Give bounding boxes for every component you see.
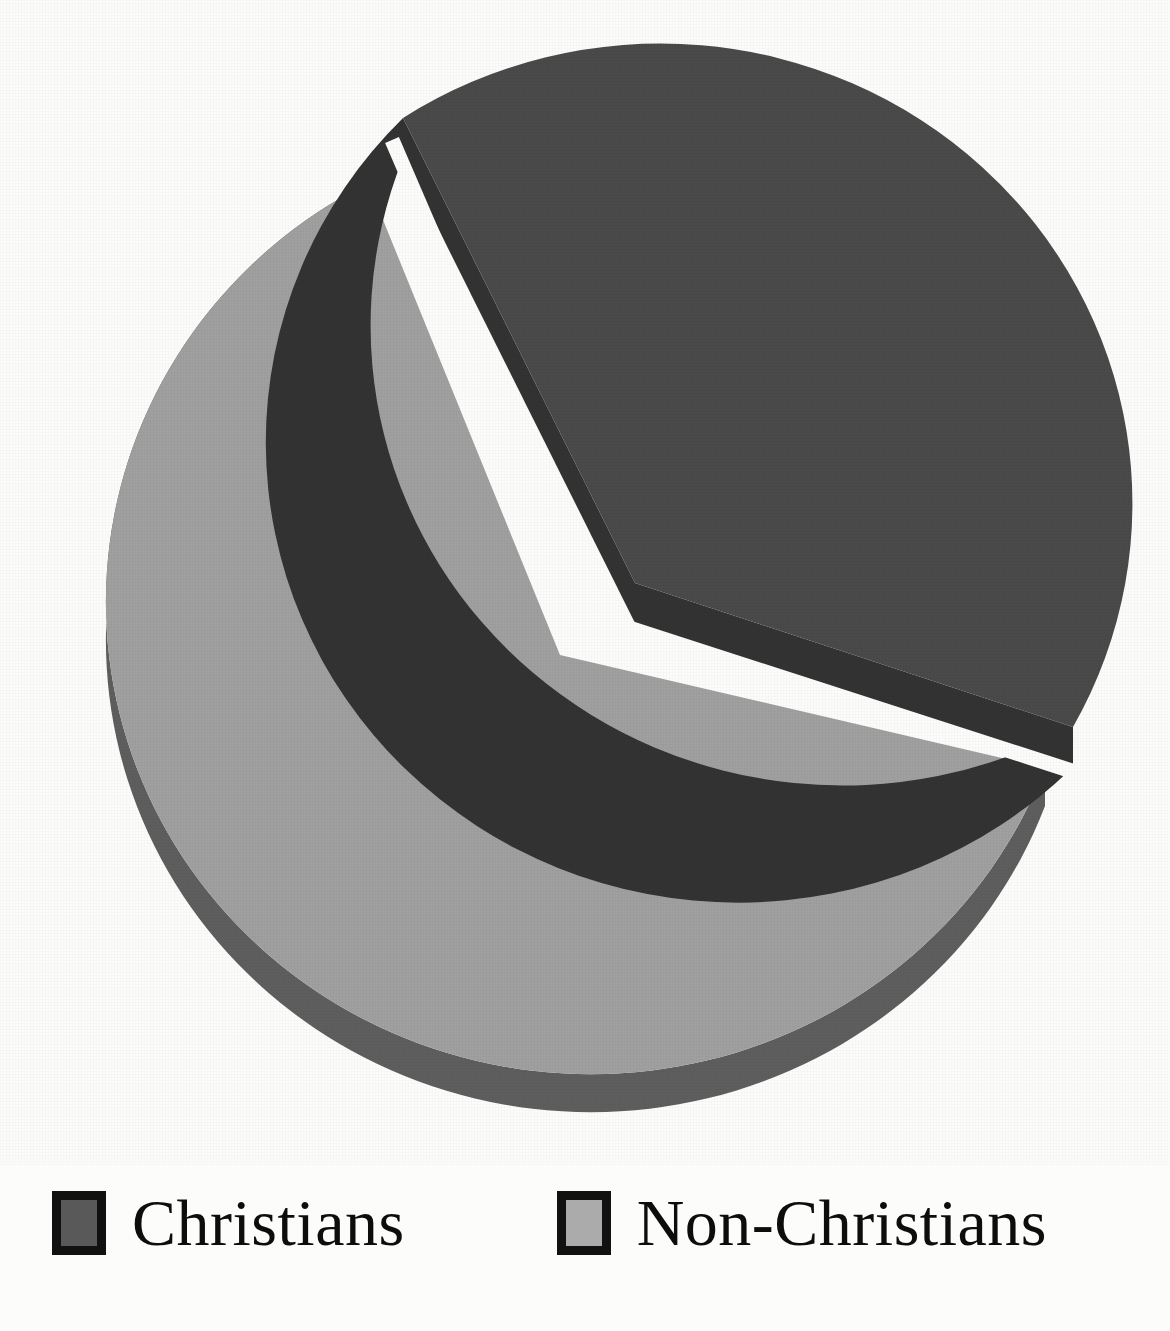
legend-swatch-non-christians (557, 1191, 611, 1255)
pie-chart-figure: Christians Non-Christians (0, 0, 1170, 1331)
chart-plot-area (0, 0, 1170, 1165)
legend-item-christians[interactable]: Christians (52, 1190, 405, 1256)
legend-label-non-christians: Non-Christians (637, 1190, 1047, 1256)
pie-chart-svg (0, 0, 1170, 1165)
legend-swatch-christians (52, 1191, 106, 1255)
legend-item-non-christians[interactable]: Non-Christians (557, 1190, 1047, 1256)
legend-label-christians: Christians (132, 1190, 405, 1256)
chart-legend: Christians Non-Christians (0, 1168, 1170, 1278)
